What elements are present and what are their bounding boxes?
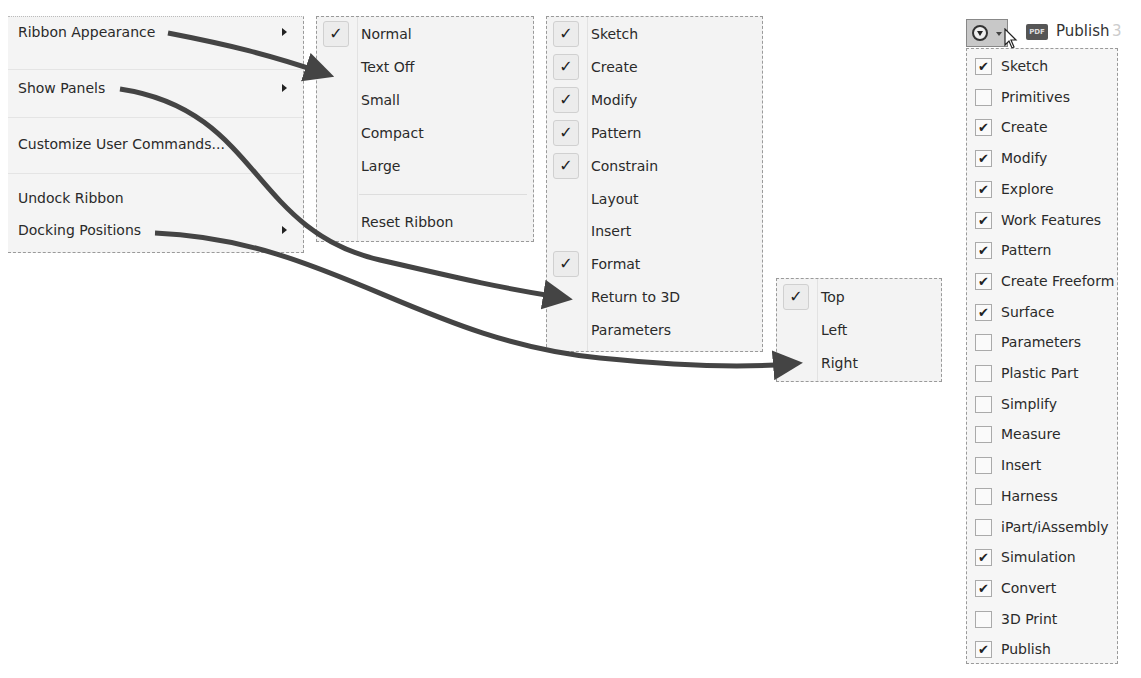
menu-item-sketch[interactable]: ✓ Sketch bbox=[547, 19, 762, 49]
panel-item-label: Insert bbox=[1001, 450, 1041, 480]
panel-item-insert[interactable]: Insert bbox=[967, 450, 1117, 481]
checkbox-unchecked-icon[interactable] bbox=[975, 488, 992, 505]
checkbox-unchecked-icon[interactable] bbox=[975, 396, 992, 413]
menu-item-label: Left bbox=[821, 315, 847, 345]
menu-item-right[interactable]: Right bbox=[777, 348, 941, 378]
panels-dropdown-list: ✔Sketch Primitives ✔Create ✔Modify ✔Expl… bbox=[966, 48, 1118, 664]
panel-item-label: Harness bbox=[1001, 481, 1058, 511]
menu-item-left[interactable]: Left bbox=[777, 315, 941, 345]
menu-item-top[interactable]: ✓ Top bbox=[777, 282, 941, 312]
checkbox-checked-icon[interactable]: ✔ bbox=[975, 212, 992, 229]
checkbox-unchecked-icon[interactable] bbox=[975, 611, 992, 628]
menu-item-label: Customize User Commands... bbox=[18, 129, 225, 159]
panel-item-create-freeform[interactable]: ✔Create Freeform bbox=[967, 266, 1117, 297]
check-icon: ✓ bbox=[553, 21, 579, 47]
menu-item-label: Constrain bbox=[591, 151, 658, 181]
panel-item-convert[interactable]: ✔Convert bbox=[967, 573, 1117, 604]
submenu-arrow-icon bbox=[282, 28, 287, 36]
menu-item-undock-ribbon[interactable]: Undock Ribbon bbox=[8, 183, 303, 213]
panel-item-label: Measure bbox=[1001, 419, 1061, 449]
panel-item-pattern[interactable]: ✔Pattern bbox=[967, 235, 1117, 266]
dropdown-circle-icon bbox=[972, 25, 988, 41]
mouse-cursor-icon bbox=[1004, 28, 1020, 50]
menu-item-label: Parameters bbox=[591, 315, 671, 345]
panel-item-label: Simplify bbox=[1001, 389, 1057, 419]
panel-item-publish[interactable]: ✔Publish bbox=[967, 634, 1117, 665]
menu-item-large[interactable]: Large bbox=[317, 151, 533, 181]
menu-item-docking-positions[interactable]: Docking Positions bbox=[8, 215, 303, 245]
panels-dropdown-button[interactable] bbox=[966, 19, 1008, 47]
checkbox-unchecked-icon[interactable] bbox=[975, 519, 992, 536]
panel-item-modify[interactable]: ✔Modify bbox=[967, 143, 1117, 174]
checkbox-unchecked-icon[interactable] bbox=[975, 365, 992, 382]
check-icon: ✓ bbox=[323, 21, 349, 47]
panel-item-create[interactable]: ✔Create bbox=[967, 112, 1117, 143]
panel-item-3d-print[interactable]: 3D Print bbox=[967, 604, 1117, 635]
checkbox-checked-icon[interactable]: ✔ bbox=[975, 119, 992, 136]
checkbox-checked-icon[interactable]: ✔ bbox=[975, 549, 992, 566]
menu-item-constrain[interactable]: ✓ Constrain bbox=[547, 151, 762, 181]
checkbox-checked-icon[interactable]: ✔ bbox=[975, 242, 992, 259]
menu-item-reset-ribbon[interactable]: Reset Ribbon bbox=[317, 207, 533, 237]
panel-item-measure[interactable]: Measure bbox=[967, 419, 1117, 450]
panel-item-harness[interactable]: Harness bbox=[967, 481, 1117, 512]
show-panels-submenu: ✓ Sketch ✓ Create ✓ Modify ✓ Pattern ✓ C… bbox=[546, 16, 763, 352]
panel-item-ipart-iassembly[interactable]: iPart/iAssembly bbox=[967, 512, 1117, 543]
check-icon: ✓ bbox=[553, 251, 579, 277]
publish-button-label[interactable]: Publish bbox=[1056, 22, 1109, 40]
menu-item-text-off[interactable]: Text Off bbox=[317, 52, 533, 82]
menu-item-label: Sketch bbox=[591, 19, 638, 49]
panel-item-label: Plastic Part bbox=[1001, 358, 1078, 388]
panel-item-sketch[interactable]: ✔Sketch bbox=[967, 51, 1117, 82]
menu-item-layout[interactable]: Layout bbox=[547, 184, 762, 214]
checkbox-checked-icon[interactable]: ✔ bbox=[975, 150, 992, 167]
checkbox-checked-icon[interactable]: ✔ bbox=[975, 641, 992, 658]
checkbox-unchecked-icon[interactable] bbox=[975, 426, 992, 443]
menu-item-parameters[interactable]: Parameters bbox=[547, 315, 762, 345]
check-icon: ✓ bbox=[783, 284, 809, 310]
checkbox-unchecked-icon[interactable] bbox=[975, 89, 992, 106]
publish-suffix: 3 bbox=[1112, 22, 1122, 40]
checkbox-checked-icon[interactable]: ✔ bbox=[975, 304, 992, 321]
separator bbox=[8, 117, 303, 118]
panel-item-label: Publish bbox=[1001, 634, 1051, 664]
checkbox-checked-icon[interactable]: ✔ bbox=[975, 273, 992, 290]
panel-item-primitives[interactable]: Primitives bbox=[967, 82, 1117, 113]
panel-item-label: iPart/iAssembly bbox=[1001, 512, 1109, 542]
checkbox-checked-icon[interactable]: ✔ bbox=[975, 181, 992, 198]
menu-item-small[interactable]: Small bbox=[317, 85, 533, 115]
menu-item-label: Insert bbox=[591, 216, 631, 246]
separator bbox=[8, 69, 303, 70]
check-icon: ✓ bbox=[553, 120, 579, 146]
panel-item-simulation[interactable]: ✔Simulation bbox=[967, 542, 1117, 573]
panel-item-label: Pattern bbox=[1001, 235, 1051, 265]
menu-item-customize-user-commands[interactable]: Customize User Commands... bbox=[8, 129, 303, 159]
menu-item-create[interactable]: ✓ Create bbox=[547, 52, 762, 82]
menu-item-insert[interactable]: Insert bbox=[547, 216, 762, 246]
panel-item-work-features[interactable]: ✔Work Features bbox=[967, 205, 1117, 236]
panel-item-simplify[interactable]: Simplify bbox=[967, 389, 1117, 420]
panel-item-parameters[interactable]: Parameters bbox=[967, 327, 1117, 358]
menu-item-ribbon-appearance[interactable]: Ribbon Appearance bbox=[8, 17, 303, 47]
menu-item-label: Ribbon Appearance bbox=[18, 17, 155, 47]
panel-item-label: Create Freeform bbox=[1001, 266, 1114, 296]
menu-item-format[interactable]: ✓ Format bbox=[547, 249, 762, 279]
menu-item-label: Text Off bbox=[361, 52, 414, 82]
panel-item-plastic-part[interactable]: Plastic Part bbox=[967, 358, 1117, 389]
checkbox-checked-icon[interactable]: ✔ bbox=[975, 580, 992, 597]
menu-item-normal[interactable]: ✓ Normal bbox=[317, 19, 533, 49]
menu-item-return-to-3d[interactable]: Return to 3D bbox=[547, 282, 762, 312]
menu-item-label: Return to 3D bbox=[591, 282, 680, 312]
menu-item-show-panels[interactable]: Show Panels bbox=[8, 73, 303, 103]
menu-item-modify[interactable]: ✓ Modify bbox=[547, 85, 762, 115]
pdf-icon: PDF bbox=[1026, 24, 1048, 40]
panel-item-explore[interactable]: ✔Explore bbox=[967, 174, 1117, 205]
separator bbox=[359, 194, 527, 195]
menu-item-pattern[interactable]: ✓ Pattern bbox=[547, 118, 762, 148]
checkbox-checked-icon[interactable]: ✔ bbox=[975, 58, 992, 75]
panel-item-label: 3D Print bbox=[1001, 604, 1057, 634]
checkbox-unchecked-icon[interactable] bbox=[975, 334, 992, 351]
panel-item-surface[interactable]: ✔Surface bbox=[967, 297, 1117, 328]
checkbox-unchecked-icon[interactable] bbox=[975, 457, 992, 474]
menu-item-compact[interactable]: Compact bbox=[317, 118, 533, 148]
